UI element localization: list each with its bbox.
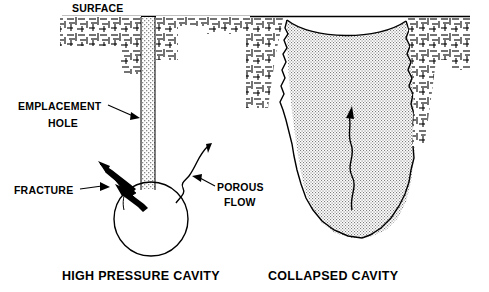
fracture-leader-arrow-icon	[100, 182, 110, 191]
surface-label: SURFACE	[72, 2, 124, 14]
overburden-hatch-left-deep	[121, 16, 141, 74]
porous-flow-arrow-icon	[206, 143, 212, 153]
emplacement-leader-arrow-icon	[130, 112, 140, 120]
overburden-hatch-cavity-right	[404, 16, 474, 148]
porous-leader-arrow-icon	[192, 174, 202, 182]
porous-leader-line	[200, 178, 215, 186]
collapsed-cavity-panel	[244, 16, 474, 244]
emplacement-hole-label-line1: EMPLACEMENT	[18, 100, 102, 112]
fracture-leader-line	[80, 186, 102, 189]
fracture-label: FRACTURE	[14, 184, 73, 196]
porous-flow-label-line2: FLOW	[224, 196, 256, 208]
caption-high-pressure-cavity: HIGH PRESSURE CAVITY	[62, 269, 220, 283]
caption-collapsed-cavity: COLLAPSED CAVITY	[268, 269, 399, 283]
diagram-canvas: SURFACE EMPLACEMENT HOLE FRACTURE POROUS…	[0, 0, 489, 292]
emplacement-hole-fill	[141, 17, 155, 189]
emplacement-hole-label-line2: HOLE	[48, 117, 78, 129]
overburden-hatch-right	[156, 16, 251, 62]
porous-flow-path	[176, 146, 208, 203]
explosion-cavity-diagram: SURFACE EMPLACEMENT HOLE FRACTURE POROUS…	[0, 0, 489, 292]
porous-flow-label-line1: POROUS	[217, 181, 264, 193]
emplacement-leader-line	[108, 105, 133, 116]
